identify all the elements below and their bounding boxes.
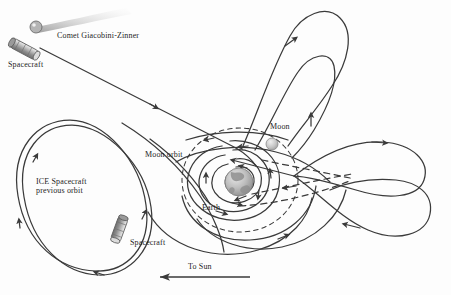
label-ice-previous-orbit: ICE Spacecraft previous orbit [36, 177, 106, 195]
orbit-transfer-arc [122, 123, 224, 252]
label-spacecraft-top: Spacecraft [8, 60, 43, 69]
label-ice-line2: previous orbit [36, 186, 83, 195]
label-spacecraft-bottom: Spacecraft [130, 238, 165, 247]
label-moon: Moon [270, 122, 290, 131]
spacecraft-icon-bottom [110, 214, 129, 244]
diagram-canvas: Comet Giacobini-Zinner Spacecraft Spacec… [0, 0, 451, 295]
comet-nucleus-icon [30, 21, 42, 33]
lower-sweep-arc [148, 198, 312, 257]
spacecraft-icon-top [7, 37, 41, 61]
comet-tail-icon [36, 8, 132, 33]
label-moon-orbit: Moon orbit [145, 150, 183, 159]
trajectory-svg [0, 0, 451, 295]
earth-icon [225, 168, 253, 196]
label-earth: Earth [202, 203, 220, 212]
ice-previous-orbit [17, 120, 152, 275]
upper-loops [243, 12, 348, 158]
moon-icon [266, 138, 278, 150]
label-comet: Comet Giacobini-Zinner [57, 31, 139, 40]
comet-giacobini-zinner [30, 8, 132, 33]
right-loop-lower [294, 176, 431, 236]
label-to-sun: To Sun [188, 262, 212, 271]
label-ice-line1: ICE Spacecraft [36, 177, 87, 186]
to-sun-arrow [160, 273, 250, 281]
